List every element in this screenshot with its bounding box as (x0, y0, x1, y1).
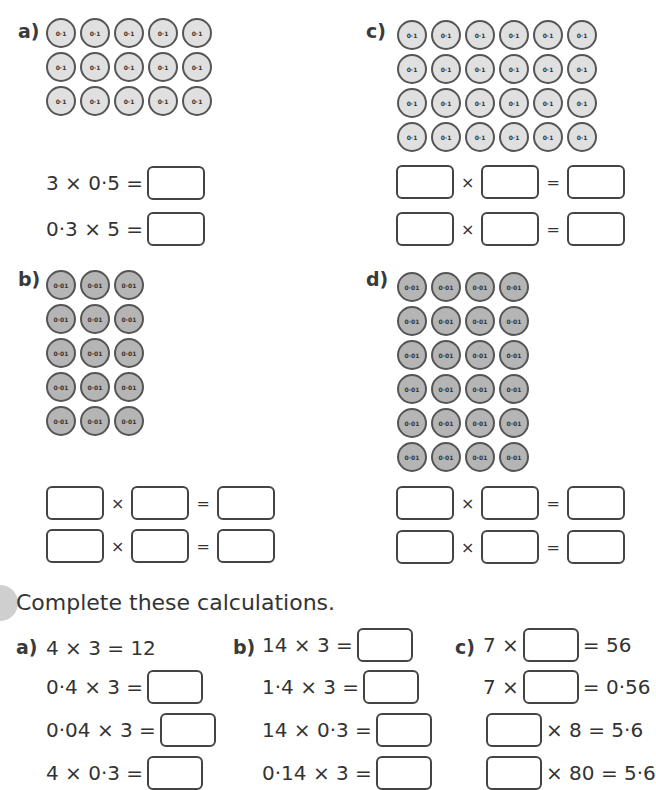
place-value-counter: 0·01 (499, 340, 529, 370)
answer-box[interactable] (481, 165, 539, 199)
place-value-counter: 0·1 (46, 52, 76, 82)
calc-2c-line3: × 8 = 5·6 (486, 713, 643, 747)
calc-2a-line2: 0·4 × 3 = (46, 670, 203, 704)
equals-symbol: = (546, 538, 559, 557)
place-value-counter: 0·01 (431, 340, 461, 370)
place-value-counter: 0·1 (533, 88, 563, 118)
answer-box[interactable] (523, 670, 579, 704)
place-value-counter: 0·01 (499, 272, 529, 302)
answer-box[interactable] (481, 530, 539, 564)
place-value-counter: 0·1 (431, 122, 461, 152)
place-value-counter: 0·1 (148, 18, 178, 48)
answer-box[interactable] (396, 165, 454, 199)
place-value-counter: 0·01 (431, 442, 461, 472)
place-value-counter: 0·01 (114, 406, 144, 436)
part-2a-label: a) (16, 636, 38, 658)
answer-box[interactable] (160, 713, 216, 747)
equation-a1: 3 × 0·5 = (46, 166, 205, 200)
place-value-counter: 0·1 (46, 18, 76, 48)
answer-box[interactable] (567, 212, 625, 246)
place-value-counter: 0·01 (80, 372, 110, 402)
equation-a2: 0·3 × 5 = (46, 212, 205, 246)
place-value-counter: 0·01 (397, 374, 427, 404)
multiplication-row-c2: × = (396, 212, 625, 246)
place-value-counter: 0·1 (533, 122, 563, 152)
answer-box[interactable] (46, 486, 104, 520)
answer-box[interactable] (376, 756, 432, 790)
times-symbol: × (111, 537, 124, 556)
place-value-counter: 0·01 (114, 304, 144, 334)
place-value-counter: 0·1 (465, 88, 495, 118)
equation-text: 0·04 × 3 = (46, 718, 156, 742)
place-value-counter: 0·1 (533, 54, 563, 84)
place-value-counter: 0·1 (431, 54, 461, 84)
place-value-counter: 0·01 (431, 408, 461, 438)
answer-box[interactable] (131, 529, 189, 563)
calc-2b-line4: 0·14 × 3 = (262, 756, 432, 790)
calc-2b-line2: 1·4 × 3 = (262, 670, 419, 704)
answer-box[interactable] (357, 628, 413, 662)
answer-box[interactable] (486, 756, 542, 790)
answer-box[interactable] (481, 486, 539, 520)
answer-box[interactable] (217, 529, 275, 563)
place-value-counter: 0·01 (114, 270, 144, 300)
answer-box[interactable] (396, 212, 454, 246)
place-value-counter: 0·1 (182, 86, 212, 116)
answer-box[interactable] (131, 486, 189, 520)
times-symbol: × (461, 220, 474, 239)
place-value-counter: 0·01 (431, 306, 461, 336)
answer-box[interactable] (147, 670, 203, 704)
place-value-counter: 0·1 (499, 54, 529, 84)
multiplication-row-c1: × = (396, 165, 625, 199)
place-value-counter: 0·1 (397, 88, 427, 118)
place-value-counter: 0·01 (465, 374, 495, 404)
place-value-counter: 0·1 (567, 122, 597, 152)
calc-2c-line4: × 80 = 5·6 (486, 756, 656, 790)
place-value-counter: 0·01 (465, 442, 495, 472)
answer-box[interactable] (46, 529, 104, 563)
place-value-counter: 0·01 (465, 272, 495, 302)
place-value-counter: 0·1 (567, 88, 597, 118)
place-value-counter: 0·01 (499, 442, 529, 472)
answer-box[interactable] (363, 670, 419, 704)
place-value-counter: 0·1 (533, 20, 563, 50)
answer-box[interactable] (486, 713, 542, 747)
answer-box[interactable] (396, 530, 454, 564)
answer-box[interactable] (396, 486, 454, 520)
equals-symbol: = (196, 494, 209, 513)
answer-box[interactable] (567, 486, 625, 520)
answer-box[interactable] (147, 212, 205, 246)
answer-box[interactable] (147, 166, 205, 200)
place-value-counter: 0·01 (397, 306, 427, 336)
place-value-counter: 0·01 (397, 408, 427, 438)
answer-box[interactable] (523, 628, 579, 662)
answer-box[interactable] (567, 530, 625, 564)
counter-grid-c: 0·10·10·10·10·10·10·10·10·10·10·10·10·10… (397, 20, 597, 152)
multiplication-row-b1: × = (46, 486, 275, 520)
answer-box[interactable] (481, 212, 539, 246)
place-value-counter: 0·01 (397, 340, 427, 370)
multiplication-row-d1: × = (396, 486, 625, 520)
answer-box[interactable] (147, 756, 203, 790)
place-value-counter: 0·01 (397, 442, 427, 472)
calc-2a-line3: 0·04 × 3 = (46, 713, 216, 747)
equation-text: × 8 = 5·6 (546, 718, 643, 742)
calc-2c-line2: 7 × = 0·56 (483, 670, 651, 704)
place-value-counter: 0·01 (80, 304, 110, 334)
equation-text: 0·14 × 3 = (262, 761, 372, 785)
calc-2c-line1: 7 × = 56 (483, 628, 631, 662)
section-heading: Complete these calculations. (16, 590, 335, 615)
part-2b-label: b) (233, 636, 255, 658)
answer-box[interactable] (376, 713, 432, 747)
calc-2a-line4: 4 × 0·3 = (46, 756, 203, 790)
place-value-counter: 0·01 (431, 374, 461, 404)
equation-text: = 0·56 (583, 675, 651, 699)
place-value-counter: 0·1 (431, 88, 461, 118)
answer-box[interactable] (567, 165, 625, 199)
place-value-counter: 0·1 (465, 122, 495, 152)
counter-grid-a: 0·10·10·10·10·10·10·10·10·10·10·10·10·10… (46, 18, 212, 116)
multiplication-row-d2: × = (396, 530, 625, 564)
counter-grid-d: 0·010·010·010·010·010·010·010·010·010·01… (397, 272, 529, 472)
answer-box[interactable] (217, 486, 275, 520)
place-value-counter: 0·1 (46, 86, 76, 116)
